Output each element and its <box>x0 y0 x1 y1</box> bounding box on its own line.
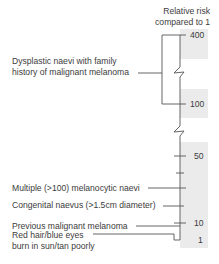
factor-label-line: Multiple (>100) melanocytic naevi <box>12 183 140 194</box>
axis-break-lower <box>174 126 184 136</box>
factor-label-line: Dysplastic naevi with family <box>12 56 129 67</box>
axis-title-line2: compared to 1 <box>130 17 210 28</box>
factor-label-line: burn in sun/tan poorly <box>12 241 95 252</box>
factor-label-line: Red hair/blue eyes <box>12 230 95 241</box>
factor-dysplastic-naevi: Dysplastic naevi with family history of … <box>12 56 129 77</box>
factor-label-line: history of malignant melanoma <box>12 67 129 78</box>
tick-label-1: 1 <box>198 235 203 245</box>
axis-title: Relative risk compared to 1 <box>130 6 210 27</box>
tick-label-10: 10 <box>194 218 204 228</box>
tick-label-400: 400 <box>190 30 204 40</box>
tick-label-100: 100 <box>190 99 204 109</box>
factor-multiple-naevi: Multiple (>100) melanocytic naevi <box>12 183 140 194</box>
axis-title-line1: Relative risk <box>130 6 210 17</box>
factor-red-hair: Red hair/blue eyes burn in sun/tan poorl… <box>12 230 95 251</box>
axis-break-upper <box>174 67 184 77</box>
dysplastic-bracket <box>162 35 174 104</box>
factor-congenital-naevus: Congenital naevus (>1.5cm diameter) <box>12 200 156 211</box>
factor-label-line: Congenital naevus (>1.5cm diameter) <box>12 200 156 211</box>
tick-label-50: 50 <box>194 151 204 161</box>
